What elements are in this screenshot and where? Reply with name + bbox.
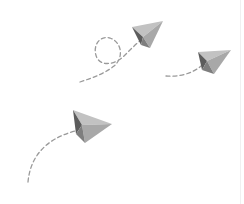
illustration-svg	[0, 0, 244, 204]
edge-divider	[240, 0, 241, 204]
bottom-left-plane-trail	[28, 131, 75, 182]
top-plane-trail	[80, 38, 141, 82]
paper-planes-illustration	[0, 0, 244, 204]
right-plane-icon	[198, 50, 231, 74]
bottom-left-plane-icon	[73, 110, 112, 143]
right-plane-trail	[166, 66, 201, 76]
